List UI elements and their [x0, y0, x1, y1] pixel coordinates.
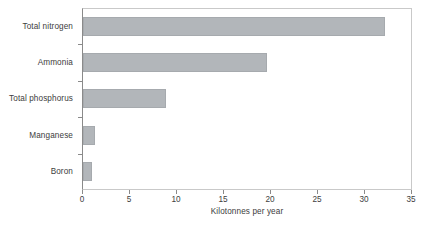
category-axis-tick: [78, 81, 82, 82]
x-axis-tick-label: 15: [208, 195, 238, 204]
category-label: Total nitrogen: [0, 8, 78, 44]
x-axis-tick: [317, 190, 318, 194]
value-axis: Kilotonnes per year 05101520253035: [0, 190, 433, 227]
x-axis-tick-label: 20: [255, 195, 285, 204]
category-label: Boron: [0, 154, 78, 190]
bar-chart: BoronManganeseTotal phosphorusAmmoniaTot…: [0, 0, 433, 227]
bar: [83, 162, 92, 181]
category-label: Manganese: [0, 117, 78, 153]
category-label: Total phosphorus: [0, 81, 78, 117]
bar-row: [83, 44, 412, 80]
x-axis-tick: [270, 190, 271, 194]
x-axis-tick: [129, 190, 130, 194]
category-axis-tick: [78, 117, 82, 118]
category-axis-tick: [78, 44, 82, 45]
bar: [83, 17, 385, 36]
x-axis-tick: [82, 190, 83, 194]
x-axis-tick: [176, 190, 177, 194]
bar-row: [83, 81, 412, 117]
x-axis-tick-label: 10: [161, 195, 191, 204]
category-label: Ammonia: [0, 44, 78, 80]
bar: [83, 53, 267, 72]
bar: [83, 89, 166, 108]
x-axis-tick-label: 35: [396, 195, 426, 204]
bar-row: [83, 8, 412, 44]
x-axis-tick-label: 30: [349, 195, 379, 204]
x-axis-tick: [223, 190, 224, 194]
bar-row: [83, 154, 412, 190]
bars-layer: [83, 8, 412, 190]
x-axis-title: Kilotonnes per year: [82, 207, 412, 216]
category-axis-tick: [78, 154, 82, 155]
x-axis-tick-label: 0: [67, 195, 97, 204]
x-axis-tick: [364, 190, 365, 194]
bar-row: [83, 117, 412, 153]
x-axis-tick-label: 5: [114, 195, 144, 204]
x-axis-tick-label: 25: [302, 195, 332, 204]
x-axis-tick: [411, 190, 412, 194]
category-axis-labels: BoronManganeseTotal phosphorusAmmoniaTot…: [0, 8, 78, 190]
bar: [83, 126, 95, 145]
